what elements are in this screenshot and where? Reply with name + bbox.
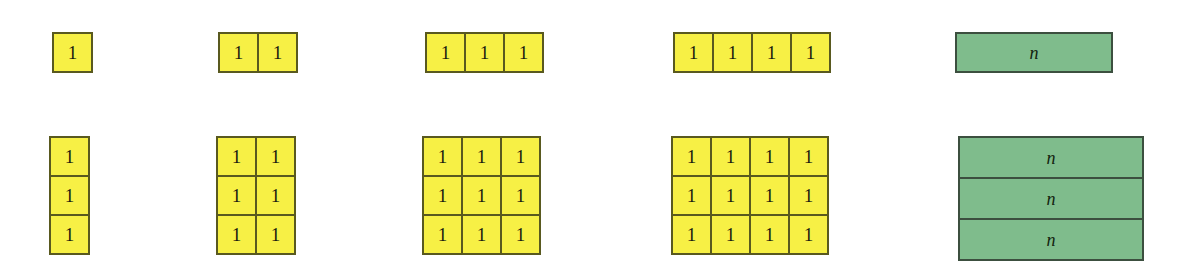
unit-grid-row: 1111 xyxy=(673,32,829,71)
unit-cell: 1 xyxy=(749,175,790,216)
group-n-by-3: nnn xyxy=(958,136,1144,259)
figure-canvas: 1111111111n11111111111111111111111111111… xyxy=(0,0,1182,277)
unit-grid-row: 11 xyxy=(216,214,294,253)
group-2-by-3: 111111 xyxy=(216,136,294,253)
unit-cell: 1 xyxy=(671,214,712,255)
unit-cell: 1 xyxy=(500,214,541,255)
unit-cell: 1 xyxy=(671,136,712,177)
unit-cell: 1 xyxy=(49,175,90,216)
unit-grid-row: 111 xyxy=(422,175,539,214)
unit-cell: 1 xyxy=(218,32,259,73)
unit-cell: 1 xyxy=(710,136,751,177)
unit-grid-row: 1111 xyxy=(671,175,827,214)
group-1-by-3: 111 xyxy=(49,136,88,253)
unit-cell: 1 xyxy=(461,136,502,177)
unit-cell: 1 xyxy=(255,136,296,177)
unit-cell: 1 xyxy=(461,214,502,255)
group-1-by-1: 1 xyxy=(52,32,91,71)
unit-cell: 1 xyxy=(790,32,831,73)
unit-cell: 1 xyxy=(422,175,463,216)
unit-cell: 1 xyxy=(422,136,463,177)
unit-cell: 1 xyxy=(257,32,298,73)
unit-cell: 1 xyxy=(673,32,714,73)
unit-cell: 1 xyxy=(503,32,544,73)
unit-cell: 1 xyxy=(464,32,505,73)
unit-cell: 1 xyxy=(255,214,296,255)
unit-grid-row: 111 xyxy=(425,32,542,71)
unit-cell: 1 xyxy=(671,175,712,216)
unit-cell: 1 xyxy=(49,214,90,255)
variable-bar: n xyxy=(958,177,1144,220)
group-2-by-1: 11 xyxy=(218,32,296,71)
group-n-by-1: n xyxy=(955,32,1113,71)
variable-bar: n xyxy=(955,32,1113,73)
unit-cell: 1 xyxy=(425,32,466,73)
variable-bar: n xyxy=(958,136,1144,179)
unit-grid-row: 11 xyxy=(218,32,296,71)
unit-cell: 1 xyxy=(749,214,790,255)
unit-cell: 1 xyxy=(255,175,296,216)
variable-bar: n xyxy=(958,218,1144,261)
unit-cell: 1 xyxy=(461,175,502,216)
unit-cell: 1 xyxy=(422,214,463,255)
unit-cell: 1 xyxy=(712,32,753,73)
unit-grid-row: 11 xyxy=(216,136,294,175)
group-3-by-1: 111 xyxy=(425,32,542,71)
unit-grid-row: 111 xyxy=(422,136,539,175)
unit-cell: 1 xyxy=(52,32,93,73)
unit-cell: 1 xyxy=(710,175,751,216)
unit-grid-row: 111 xyxy=(422,214,539,253)
unit-cell: 1 xyxy=(749,136,790,177)
unit-cell: 1 xyxy=(500,175,541,216)
unit-grid-row: 1 xyxy=(49,175,88,214)
unit-grid-row: 1 xyxy=(49,136,88,175)
unit-grid-row: 1111 xyxy=(671,214,827,253)
unit-grid-row: 1111 xyxy=(671,136,827,175)
unit-cell: 1 xyxy=(216,175,257,216)
unit-cell: 1 xyxy=(788,136,829,177)
unit-grid-row: 11 xyxy=(216,175,294,214)
group-3-by-3: 111111111 xyxy=(422,136,539,253)
unit-cell: 1 xyxy=(49,136,90,177)
group-4-by-1: 1111 xyxy=(673,32,829,71)
unit-cell: 1 xyxy=(788,175,829,216)
unit-cell: 1 xyxy=(710,214,751,255)
unit-cell: 1 xyxy=(216,136,257,177)
group-4-by-3: 111111111111 xyxy=(671,136,827,253)
unit-grid-row: 1 xyxy=(52,32,91,71)
unit-cell: 1 xyxy=(216,214,257,255)
unit-cell: 1 xyxy=(500,136,541,177)
unit-cell: 1 xyxy=(788,214,829,255)
unit-cell: 1 xyxy=(751,32,792,73)
unit-grid-row: 1 xyxy=(49,214,88,253)
